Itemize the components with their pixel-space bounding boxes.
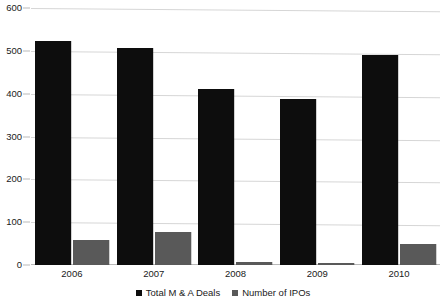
bar-pair bbox=[31, 8, 113, 265]
y-axis-tick-label: 0 bbox=[17, 260, 22, 270]
bar-group bbox=[358, 8, 440, 265]
legend-swatch-icon bbox=[232, 290, 238, 296]
x-axis-label-2010: 2010 bbox=[358, 268, 440, 286]
bar-pair bbox=[113, 8, 195, 265]
legend-item-number-of-ipos[interactable]: Number of IPOs bbox=[232, 288, 310, 298]
y-axis-tick-label: 300 bbox=[6, 132, 22, 142]
bar-pair bbox=[195, 8, 277, 265]
y-axis-tick-label: 400 bbox=[6, 89, 22, 99]
legend-item-total-ma-deals[interactable]: Total M & A Deals bbox=[136, 288, 220, 298]
bar-chart: 0100200300400500600 20062007200820092010… bbox=[0, 0, 446, 305]
bar-number-of-ipos-2009[interactable] bbox=[318, 263, 354, 265]
x-axis-label-2009: 2009 bbox=[276, 268, 358, 286]
bar-total-ma-deals-2009[interactable] bbox=[280, 99, 316, 265]
bar-number-of-ipos-2007[interactable] bbox=[155, 232, 191, 265]
x-axis: 20062007200820092010 bbox=[31, 268, 440, 286]
y-axis-tick-label: 100 bbox=[6, 217, 22, 227]
x-axis-label-2008: 2008 bbox=[195, 268, 277, 286]
bar-total-ma-deals-2007[interactable] bbox=[117, 48, 153, 265]
y-axis-tick-mark bbox=[23, 8, 30, 9]
bar-group bbox=[276, 8, 358, 265]
bar-group bbox=[195, 8, 277, 265]
bar-total-ma-deals-2006[interactable] bbox=[35, 41, 71, 265]
legend-label: Number of IPOs bbox=[242, 288, 310, 298]
chart-legend: Total M & A DealsNumber of IPOs bbox=[0, 288, 446, 298]
legend-swatch-icon bbox=[136, 290, 142, 296]
bar-number-of-ipos-2008[interactable] bbox=[236, 262, 272, 265]
bar-groups bbox=[31, 8, 440, 265]
y-axis-tick-label: 600 bbox=[6, 3, 22, 13]
x-axis-label-2006: 2006 bbox=[31, 268, 113, 286]
bar-number-of-ipos-2010[interactable] bbox=[400, 244, 436, 265]
bar-pair bbox=[358, 8, 440, 265]
bar-pair bbox=[276, 8, 358, 265]
y-axis-tick-mark bbox=[23, 136, 30, 137]
y-axis-tick-label: 200 bbox=[6, 175, 22, 185]
y-axis-tick-mark bbox=[23, 222, 30, 223]
y-axis: 0100200300400500600 bbox=[0, 0, 31, 265]
bar-number-of-ipos-2006[interactable] bbox=[73, 240, 109, 265]
y-axis-tick-mark bbox=[23, 179, 30, 180]
x-axis-label-2007: 2007 bbox=[113, 268, 195, 286]
bar-group bbox=[113, 8, 195, 265]
bar-total-ma-deals-2010[interactable] bbox=[362, 55, 398, 265]
y-axis-tick-mark bbox=[23, 265, 30, 266]
plot-area bbox=[31, 8, 440, 265]
y-axis-tick-mark bbox=[23, 50, 30, 51]
bar-total-ma-deals-2008[interactable] bbox=[198, 89, 234, 265]
legend-label: Total M & A Deals bbox=[146, 288, 220, 298]
y-axis-tick-label: 500 bbox=[6, 46, 22, 56]
bar-group bbox=[31, 8, 113, 265]
y-axis-tick-mark bbox=[23, 93, 30, 94]
